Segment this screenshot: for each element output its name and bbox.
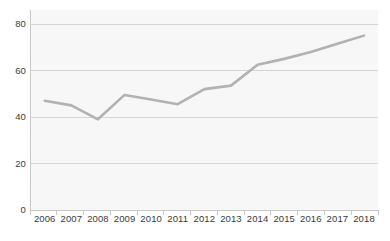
x-axis-tick-label: 2006 <box>34 214 56 224</box>
x-axis-tick-label: 2018 <box>353 214 375 224</box>
y-axis-tick-label: 20 <box>2 159 26 169</box>
data-series <box>45 36 364 120</box>
series-line <box>45 36 364 120</box>
x-axis-tick-labels: 2006200720082009201020112012201320142015… <box>30 214 378 234</box>
x-axis-tick-label: 2011 <box>167 214 188 224</box>
y-axis-tick-label: 40 <box>2 112 26 122</box>
x-axis-tick-label: 2013 <box>220 214 242 224</box>
x-axis-tick-label: 2010 <box>140 214 162 224</box>
y-axis-tick-labels: 020406080 <box>0 0 26 241</box>
x-axis-tick-label: 2012 <box>194 214 216 224</box>
line-chart: 020406080 200620072008200920102011201220… <box>0 0 390 241</box>
gridlines <box>30 24 378 210</box>
chart-canvas <box>0 0 390 241</box>
x-axis-tick-label: 2014 <box>247 214 269 224</box>
x-axis-tick-label: 2008 <box>87 214 109 224</box>
x-axis-tick-label: 2016 <box>300 214 322 224</box>
y-axis-tick-label: 80 <box>2 19 26 29</box>
x-axis-tick-label: 2015 <box>273 214 295 224</box>
x-axis-tick-label: 2017 <box>327 214 349 224</box>
y-axis-tick-label: 60 <box>2 66 26 76</box>
y-axis-tick-label: 0 <box>2 205 26 215</box>
x-axis-tick-label: 2007 <box>61 214 83 224</box>
x-axis-tick-label: 2009 <box>114 214 136 224</box>
